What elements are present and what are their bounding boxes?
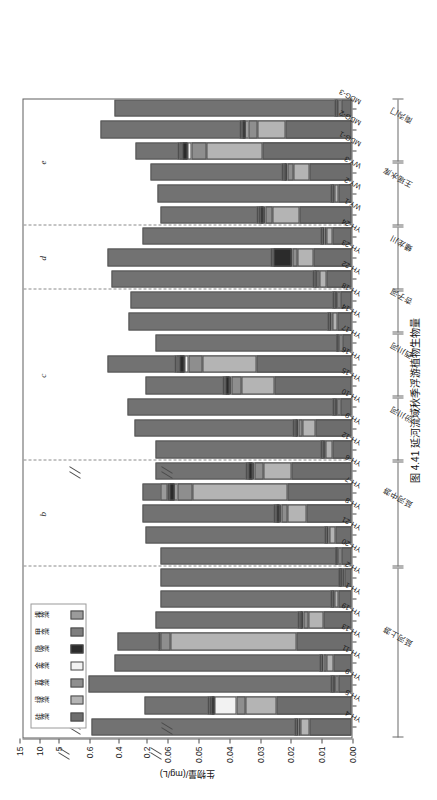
- bar-column: [23, 566, 351, 587]
- legend-swatch: [70, 712, 83, 721]
- panel-letter-c: c: [37, 373, 47, 377]
- reach-span-cap: [392, 395, 403, 396]
- figure-caption: 图 4.41 延河流域秋季浮游植物生物量: [406, 0, 421, 800]
- legend-item: 硅藻: [34, 709, 83, 724]
- reach-span-cap: [392, 226, 403, 227]
- bar-segment: [294, 718, 296, 735]
- bar-column: [23, 98, 351, 118]
- bar-segment: [309, 718, 351, 735]
- bar-segment: [245, 696, 276, 713]
- category-tick: [352, 342, 356, 343]
- bar-segment: [257, 120, 285, 137]
- bar-segment: [330, 590, 332, 607]
- bar-segment: [225, 376, 228, 393]
- reach-span-cap: [392, 162, 403, 163]
- panel-letter-e: e: [37, 160, 47, 164]
- bar-segment: [287, 504, 306, 521]
- category-tick: [352, 662, 356, 663]
- figure-page: 生物量/(mg/L) 0.000.010.020.030.040.050.060…: [0, 0, 437, 800]
- value-axis: 生物量/(mg/L) 0.000.010.020.030.040.050.060…: [22, 738, 352, 800]
- bar-segment: [320, 227, 322, 244]
- bar-segment: [263, 462, 291, 479]
- bar-segment: [182, 142, 187, 159]
- bar-segment: [298, 419, 302, 436]
- category-tick: [352, 705, 356, 706]
- value-axis-tick-label: 0.04: [224, 746, 234, 763]
- bar-total-overlay: [127, 398, 351, 415]
- reach-span-cap: [392, 565, 403, 566]
- bar-segment: [192, 483, 287, 500]
- bar-segment: [191, 142, 206, 159]
- legend-swatch: [70, 644, 83, 653]
- bar-total-overlay: [88, 675, 351, 692]
- bar-segment: [207, 696, 209, 713]
- bar-column: [23, 204, 351, 225]
- reach-span-cap: [392, 331, 403, 332]
- bar-column: [23, 460, 351, 481]
- bar-segment: [319, 270, 326, 287]
- bar-segment: [273, 248, 290, 265]
- bar-column: [23, 118, 351, 139]
- panel-separator: [23, 459, 351, 460]
- legend-item: 蓝藻: [34, 675, 83, 690]
- bar-segment: [160, 632, 170, 649]
- reach-span-cap: [392, 459, 403, 460]
- category-tick: [352, 406, 356, 407]
- bar-segment: [335, 675, 339, 692]
- bar-segment: [287, 483, 351, 500]
- bar-segment: [297, 248, 313, 265]
- value-axis-tick-label: 5: [53, 746, 63, 751]
- category-tick: [352, 556, 356, 557]
- bar-total-overlay: [145, 526, 351, 543]
- panel-letter-b: b: [37, 512, 47, 517]
- bar-segment: [302, 419, 314, 436]
- bar-column: [23, 225, 351, 246]
- bar-segment: [334, 590, 338, 607]
- category-tick: [352, 172, 356, 173]
- panel-separator: [23, 288, 351, 289]
- category-tick: [352, 129, 356, 130]
- bar-segment: [292, 419, 294, 436]
- reach-span-cap: [392, 288, 403, 289]
- bar-column: [23, 310, 351, 331]
- legend-item-label: 蓝藻: [34, 679, 68, 687]
- reach-span-line: [397, 568, 398, 737]
- bar-segment: [326, 654, 333, 671]
- legend-item-label: 绿藻: [34, 696, 68, 704]
- bar-segment: [241, 376, 274, 393]
- bar-segment: [174, 355, 176, 372]
- bar-segment: [281, 163, 283, 180]
- bar-total-overlay: [160, 547, 351, 564]
- bar-segment: [160, 483, 167, 500]
- bar-column: [23, 481, 351, 502]
- value-axis-tick-label: 0.2: [141, 746, 151, 758]
- bar-segment: [276, 696, 351, 713]
- bar-segment: [291, 462, 351, 479]
- bar-segment: [332, 291, 334, 308]
- bar-segment: [319, 654, 321, 671]
- bar-segment: [336, 334, 338, 351]
- value-axis-title: 生物量/(mg/L): [159, 768, 215, 781]
- panel-separator: [23, 224, 351, 225]
- reach-span-cap: [392, 567, 403, 568]
- bar-segment: [231, 376, 241, 393]
- bar-segment: [334, 99, 336, 116]
- legend-item-label: 硅藻: [34, 713, 68, 721]
- bar-segment: [236, 696, 245, 713]
- legend-item-label: 裸藻: [34, 611, 68, 619]
- legend-item: 隐藻: [34, 641, 83, 656]
- legend-swatch: [70, 627, 83, 636]
- bar-segment: [292, 248, 297, 265]
- bar-segment: [270, 248, 272, 265]
- category-tick: [352, 684, 356, 685]
- bar-column: [23, 396, 351, 417]
- value-axis-tick-label: 0.06: [162, 746, 172, 763]
- reach-span-cap: [392, 736, 403, 737]
- bar-segment: [177, 142, 179, 159]
- bar-segment: [222, 376, 224, 393]
- category-tick: [352, 364, 356, 365]
- bar-column: [23, 545, 351, 566]
- bar-segment: [188, 355, 202, 372]
- bar-column: [23, 502, 351, 523]
- bar-total-overlay: [114, 99, 351, 116]
